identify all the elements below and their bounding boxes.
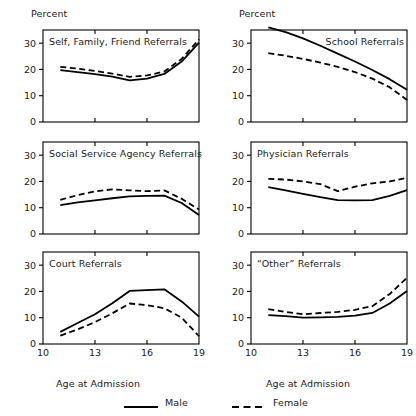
referral-percent-small-multiples-figure: Percent 0102030Self, Family, Friend Refe…: [0, 0, 416, 416]
svg-text:10: 10: [24, 202, 36, 213]
svg-text:13: 13: [297, 347, 309, 356]
svg-text:20: 20: [24, 176, 36, 187]
svg-text:16: 16: [141, 347, 153, 356]
svg-text:10: 10: [232, 202, 244, 213]
svg-text:0: 0: [238, 228, 244, 239]
svg-text:10: 10: [245, 347, 257, 356]
y-axis-title-left: Percent: [31, 8, 67, 19]
legend-item-female: Female: [232, 392, 308, 412]
legend-swatch-female-dashed-line: [232, 397, 266, 407]
svg-text:19: 19: [401, 347, 413, 356]
legend-item-male: Male: [124, 392, 188, 412]
svg-text:10: 10: [232, 312, 244, 323]
svg-text:0: 0: [30, 228, 36, 239]
svg-text:13: 13: [89, 347, 101, 356]
svg-text:0: 0: [30, 116, 36, 127]
svg-text:30: 30: [232, 150, 244, 161]
svg-text:30: 30: [232, 260, 244, 271]
legend: Male Female: [0, 392, 416, 416]
svg-text:30: 30: [24, 150, 36, 161]
svg-text:20: 20: [232, 286, 244, 297]
svg-text:10: 10: [24, 90, 36, 101]
svg-text:20: 20: [232, 64, 244, 75]
chart-panel-court-referrals: 010203010131619Court Referrals: [0, 244, 208, 356]
chart-panel-social-service-agency-referrals: 0102030Social Service Agency Referrals: [0, 134, 208, 244]
svg-text:0: 0: [30, 338, 36, 349]
svg-text:30: 30: [24, 260, 36, 271]
legend-swatch-male-solid-line: [124, 397, 158, 407]
svg-text:10: 10: [24, 312, 36, 323]
svg-text:20: 20: [24, 64, 36, 75]
legend-label-male: Male: [165, 397, 188, 408]
svg-text:16: 16: [349, 347, 361, 356]
x-axis-title-left: Age at Admission: [0, 378, 202, 389]
svg-text:10: 10: [232, 90, 244, 101]
svg-text:0: 0: [238, 338, 244, 349]
chart-panel-school-referrals: 0102030School Referrals: [208, 22, 416, 134]
chart-panel-physician-referrals: 0102030Physician Referrals: [208, 134, 416, 244]
svg-text:20: 20: [24, 286, 36, 297]
chart-panel-self-family-friend-referrals: 0102030Self, Family, Friend Referrals: [0, 22, 208, 134]
svg-text:19: 19: [193, 347, 205, 356]
chart-panel-other-referrals: 010203010131619“Other” Referrals: [208, 244, 416, 356]
chart-column-right: Percent 0102030School Referrals 0102030P…: [208, 0, 416, 380]
svg-text:30: 30: [24, 38, 36, 49]
svg-text:10: 10: [37, 347, 49, 356]
chart-column-left: Percent 0102030Self, Family, Friend Refe…: [0, 0, 208, 380]
legend-label-female: Female: [273, 397, 308, 408]
y-axis-title-right: Percent: [239, 8, 275, 19]
svg-text:0: 0: [238, 116, 244, 127]
svg-text:20: 20: [232, 176, 244, 187]
svg-text:30: 30: [232, 38, 244, 49]
x-axis-title-right: Age at Admission: [204, 378, 412, 389]
